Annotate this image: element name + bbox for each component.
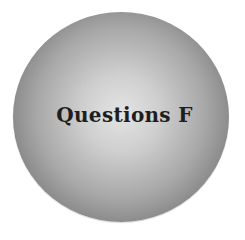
badge-title: Questions F — [0, 103, 245, 127]
